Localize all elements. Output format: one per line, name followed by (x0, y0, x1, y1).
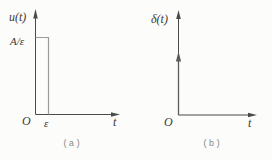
panel-b-y-axis-label: δ(t) (151, 13, 168, 25)
panel-a-amplitude-label: A/ε (10, 36, 24, 47)
panel-b-impulse-arrowhead-icon (176, 52, 181, 62)
panel-a-axes (33, 9, 120, 117)
signal-figure: u(t) A/ε O ε t (a) δ(t) O t (b) (0, 0, 272, 160)
panel-a-caption: (a) (52, 140, 92, 149)
panel-b-axes (176, 10, 257, 117)
panel-b-caption: (b) (192, 140, 232, 149)
panel-a-pulse-width-label: ε (44, 118, 48, 129)
panel-b-origin-label: O (164, 116, 173, 128)
panel-a-y-axis-arrow-icon (33, 9, 38, 19)
panel-a-y-axis-label: u(t) (9, 11, 26, 23)
panel-a-origin-label: O (22, 115, 31, 127)
panel-a-x-axis-label: t (113, 116, 116, 128)
panel-b-x-axis-label: t (248, 117, 251, 129)
panel-b-y-axis-arrow-icon (176, 10, 181, 19)
panel-a-pulse-curve (36, 38, 49, 115)
plot-canvas (0, 0, 272, 160)
